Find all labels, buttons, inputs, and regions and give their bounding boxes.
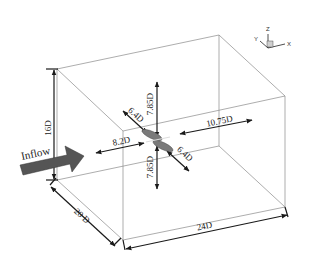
height-label: 16D bbox=[43, 120, 53, 136]
axis-triad: Z X Y bbox=[254, 26, 291, 48]
lateral-back-label: 6.4D bbox=[126, 105, 146, 125]
inflow-arrow: Inflow bbox=[20, 144, 84, 175]
axis-cube-icon bbox=[267, 41, 273, 47]
below-dimension: 7.85D bbox=[145, 146, 157, 189]
lateral-back-dimension: 6.4D bbox=[123, 105, 147, 133]
domain-diagram: 16D 20 D 24D Inflow 8.2D 10.75D 7.85D 7.… bbox=[0, 0, 310, 269]
domain-box bbox=[57, 35, 285, 240]
axis-x-label: X bbox=[287, 41, 291, 47]
below-label: 7.85D bbox=[145, 155, 155, 178]
width-dimension: 20 D bbox=[50, 178, 121, 246]
above-label: 7.85D bbox=[145, 92, 155, 115]
upstream-dimension: 8.2D bbox=[96, 134, 144, 153]
axis-y-label: Y bbox=[254, 36, 258, 42]
above-dimension: 7.85D bbox=[145, 82, 157, 137]
axis-z-label: Z bbox=[266, 26, 270, 32]
length-dimension: 24D bbox=[123, 207, 288, 250]
